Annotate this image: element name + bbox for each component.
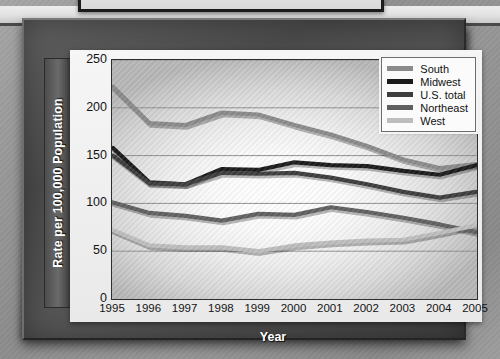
legend-item: Northeast [387,101,468,114]
x-axis-title: Year [70,326,476,348]
x-axis-tick-labels: 1995199619971998199920002001200220032004… [111,300,476,320]
x-tick-label: 1999 [244,302,270,314]
x-tick-label: 1995 [99,302,125,314]
chart-card: 250200150100500 199519961997199819992000… [70,50,482,322]
x-tick-label: 1997 [172,302,198,314]
y-tick-label: 50 [93,243,107,257]
x-tick-label: 1996 [136,302,162,314]
y-axis-title: Rate per 100,000 Population [44,58,72,308]
x-tick-label: 2005 [462,302,488,314]
x-axis-title-text: Year [260,330,286,344]
y-tick-label: 250 [86,52,107,66]
x-tick-label: 2001 [317,302,343,314]
legend-item-label: West [420,115,445,127]
legend-item: U.S. total [387,88,468,101]
y-tick-label: 100 [86,195,107,209]
legend-color-swatch [387,79,413,84]
legend-item-label: Midwest [420,76,460,88]
x-tick-label: 2004 [426,302,452,314]
legend-item: Midwest [387,75,468,88]
y-axis-title-text: Rate per 100,000 Population [51,98,65,267]
top-cropped-panel [78,0,384,12]
legend-item-label: Northeast [420,102,468,114]
legend-color-swatch [387,92,413,97]
legend-item: West [387,114,468,127]
y-tick-label: 200 [86,100,107,114]
legend-color-swatch [387,105,413,110]
series-line-west [113,225,476,251]
y-axis-tick-labels: 250200150100500 [70,50,111,298]
legend-color-swatch [387,118,413,123]
y-tick-label: 150 [86,148,107,162]
legend-item-label: South [420,63,449,75]
chart-plaque: Rate per 100,000 Population 250200150100… [22,18,466,340]
series-shadow-west [114,228,477,254]
x-tick-label: 2003 [390,302,416,314]
x-tick-label: 1998 [208,302,234,314]
x-tick-label: 2002 [353,302,379,314]
x-tick-label: 2000 [281,302,307,314]
legend-item-label: U.S. total [420,89,465,101]
chart-legend: SouthMidwestU.S. totalNortheastWest [381,57,476,132]
legend-item: South [387,62,468,75]
legend-color-swatch [387,66,413,71]
